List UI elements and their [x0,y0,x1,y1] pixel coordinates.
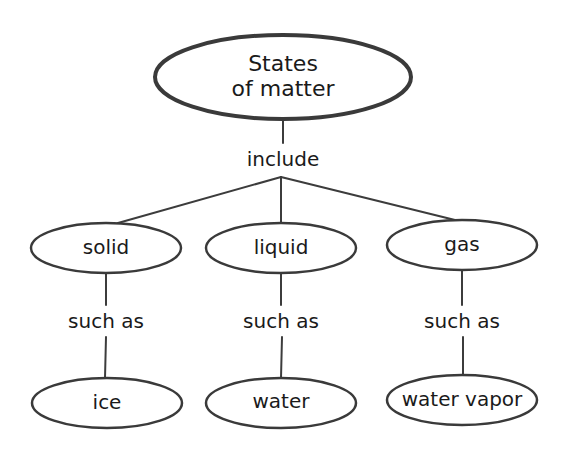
edge-include-to-solid [118,177,281,223]
node-ice-label: ice [93,391,122,413]
link-label-solid: such as [66,310,146,332]
concept-map: States of matter include solid liquid ga… [0,0,572,457]
edge-link-to-ice [105,337,106,378]
node-water-vapor-label: water vapor [402,388,523,410]
node-water-label: water [253,390,310,412]
node-root-label: States of matter [232,52,335,101]
edge-link-to-water [281,337,282,378]
node-solid-label: solid [83,236,129,258]
link-label-include: include [245,148,321,170]
root-label-line1: States [232,52,335,77]
root-label-line2: of matter [232,77,335,102]
link-label-liquid: such as [241,310,321,332]
link-label-gas: such as [422,310,502,332]
node-liquid-label: liquid [254,236,309,258]
edge-include-to-gas [281,177,455,220]
node-gas-label: gas [444,233,479,255]
